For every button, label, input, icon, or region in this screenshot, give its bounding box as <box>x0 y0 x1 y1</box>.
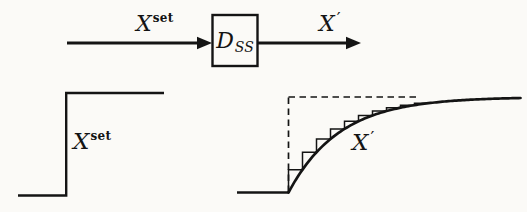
figure-canvas: Xset DSS X′ Xset X′ <box>0 0 527 212</box>
input-signal-label: Xset <box>136 13 174 35</box>
output-arrowhead-icon <box>346 37 361 49</box>
block-label: DSS <box>216 30 254 52</box>
block-diagram <box>67 15 361 66</box>
response-plot-label: X′ <box>352 131 374 154</box>
response-curve <box>289 98 521 192</box>
response-plot <box>237 97 521 193</box>
output-signal-label: X′ <box>319 13 341 35</box>
diagram-graphics <box>0 0 527 212</box>
input-arrowhead-icon <box>197 37 212 49</box>
step-plot-label: Xset <box>73 130 112 153</box>
